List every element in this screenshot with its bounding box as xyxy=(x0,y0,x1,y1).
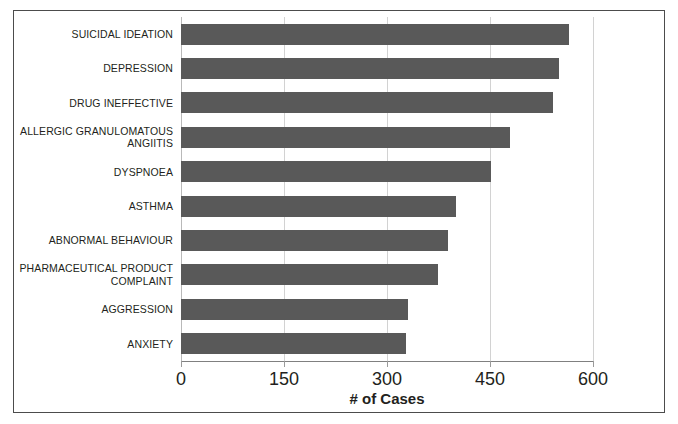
x-tick-label-450: 450 xyxy=(475,369,505,390)
bar-row: ALLERGIC GRANULOMATOUS ANGIITIS xyxy=(181,120,593,154)
bar-row: DRUG INEFFECTIVE xyxy=(181,86,593,120)
chart-frame: SUICIDAL IDEATION DEPRESSION DRUG INEFFE… xyxy=(13,10,665,413)
bar-drug-ineffective[interactable] xyxy=(181,92,553,113)
bar-row: PHARMACEUTICAL PRODUCT COMPLAINT xyxy=(181,258,593,292)
bar-row: ABNORMAL BEHAVIOUR xyxy=(181,223,593,257)
bar-asthma[interactable] xyxy=(181,196,456,217)
x-tick-label-600: 600 xyxy=(578,369,608,390)
x-tick-450 xyxy=(490,361,491,367)
x-tick-600 xyxy=(593,361,594,367)
x-tick-label-0: 0 xyxy=(176,369,186,390)
x-tick-150 xyxy=(284,361,285,367)
bar-dyspnoea[interactable] xyxy=(181,161,491,182)
bar-aggression[interactable] xyxy=(181,299,408,320)
x-tick-300 xyxy=(387,361,388,367)
category-label: DEPRESSION xyxy=(1,51,173,85)
category-label: AGGRESSION xyxy=(1,292,173,326)
bar-row: SUICIDAL IDEATION xyxy=(181,17,593,51)
category-label: DYSPNOEA xyxy=(1,155,173,189)
plot-area: SUICIDAL IDEATION DEPRESSION DRUG INEFFE… xyxy=(181,17,593,361)
x-tick-label-300: 300 xyxy=(372,369,402,390)
category-label: DRUG INEFFECTIVE xyxy=(1,86,173,120)
x-axis-title: # of Cases xyxy=(181,390,593,407)
category-label: ALLERGIC GRANULOMATOUS ANGIITIS xyxy=(1,120,173,154)
bar-row: ASTHMA xyxy=(181,189,593,223)
category-label: ASTHMA xyxy=(1,189,173,223)
bar-row: ANXIETY xyxy=(181,327,593,361)
category-label: ANXIETY xyxy=(1,327,173,361)
bar-anxiety[interactable] xyxy=(181,333,406,354)
category-label: SUICIDAL IDEATION xyxy=(1,17,173,51)
category-label: ABNORMAL BEHAVIOUR xyxy=(1,223,173,257)
x-tick-label-150: 150 xyxy=(269,369,299,390)
bar-abnormal-behaviour[interactable] xyxy=(181,230,448,251)
bar-row: DYSPNOEA xyxy=(181,155,593,189)
bar-suicidal-ideation[interactable] xyxy=(181,24,569,45)
x-tick-0 xyxy=(181,361,182,367)
bar-row: DEPRESSION xyxy=(181,51,593,85)
gridline-600 xyxy=(593,17,594,361)
bar-depression[interactable] xyxy=(181,58,559,79)
category-label: PHARMACEUTICAL PRODUCT COMPLAINT xyxy=(1,258,173,292)
bar-allergic-granulomatous-angiitis[interactable] xyxy=(181,127,510,148)
bar-row: AGGRESSION xyxy=(181,292,593,326)
bar-pharmaceutical-product-complaint[interactable] xyxy=(181,264,438,285)
